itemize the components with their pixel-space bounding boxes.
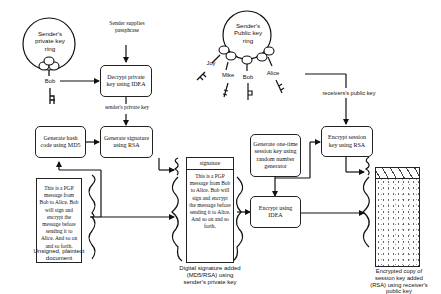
encrypt-idea-box: Encrypt using IDEA — [250, 196, 301, 228]
public-key-ring-label: Sender's Public key ring — [228, 22, 268, 44]
joy-label: Joy — [203, 60, 219, 67]
passphrase-annotation: Sender supplies passphrase — [100, 20, 154, 34]
generate-session-key-box: Generate one-time session key using rand… — [250, 134, 301, 177]
senders-private-key-annotation: sender's private key — [96, 104, 158, 111]
bob-private-key-icon — [49, 70, 55, 104]
decrypt-private-key-box: Decrypt private key using IDEA — [100, 65, 152, 97]
encrypted-document — [375, 167, 420, 267]
encrypt-session-key-box: Encrypt session key using RSA — [321, 126, 373, 157]
generate-signature-box: Generate signature using RSA — [100, 126, 153, 158]
signed-document-text: This is a PGP message from Bob to Alice.… — [187, 170, 233, 231]
mike-label: Mike — [218, 72, 238, 79]
bob-public-label: Bob — [239, 74, 257, 81]
alice-label: Alice — [262, 70, 284, 77]
encrypted-session-key-header — [376, 168, 419, 179]
private-key-ring-label: Sender's private key ring — [30, 30, 70, 52]
unsigned-caption: Unsigned, plaintext document — [32, 248, 86, 262]
bob-key-label: Bob — [40, 78, 60, 85]
generate-hash-box: Generate hash code using MD5 — [35, 126, 86, 158]
bob-public-key-icon — [247, 64, 252, 100]
encrypted-body-texture — [376, 179, 419, 267]
receivers-public-key-annotation: receivers's public key — [317, 90, 381, 97]
joy-key-icon — [197, 55, 220, 80]
mike-key-icon — [223, 62, 228, 97]
signed-document: signature This is a PGP message from Bob… — [186, 157, 234, 263]
encrypted-caption: Encrypted copy of session key added (RSA… — [370, 268, 428, 294]
unsigned-document-text: This is a PGP message from Bob to Alice.… — [40, 185, 79, 249]
signed-caption: Digital signature added (MD5/RSA) using … — [178, 265, 242, 285]
signature-header: signature — [187, 158, 233, 170]
